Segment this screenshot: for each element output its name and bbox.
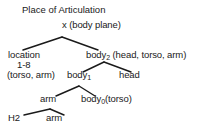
- node-h2: H2: [8, 113, 20, 123]
- node-body0-suffix: (torso): [105, 93, 132, 104]
- node-head-label: head: [119, 69, 140, 80]
- node-torso-arm-annotation: (torso, arm): [7, 70, 55, 80]
- node-h2-label: H2: [8, 112, 20, 123]
- node-body2-subscript: 2: [106, 54, 110, 61]
- node-body0-label: body: [81, 93, 101, 104]
- node-body1: body1: [67, 70, 91, 80]
- node-root-label: x (body plane): [62, 19, 121, 30]
- node-body2: body2 (head, torso, arm): [86, 50, 186, 60]
- node-arm-leaf: arm: [46, 113, 62, 123]
- node-arm-upper: arm: [40, 94, 56, 104]
- tree-edge-body1-to-arm1: [56, 86, 79, 96]
- place-of-articulation-diagram: Place of Articulation x (body plane) loc…: [0, 0, 203, 133]
- node-head: head: [119, 70, 140, 80]
- node-root: x (body plane): [62, 20, 121, 30]
- node-body0-subscript: 0: [101, 98, 105, 105]
- node-arm-upper-label: arm: [40, 93, 56, 104]
- node-torso-arm-label: (torso, arm): [7, 69, 55, 80]
- node-body1-label: body: [67, 69, 87, 80]
- node-body0: body0(torso): [81, 94, 132, 104]
- node-body1-subscript: 1: [87, 74, 91, 81]
- node-arm-leaf-label: arm: [46, 112, 62, 123]
- node-body2-label: body: [86, 49, 106, 60]
- node-body2-suffix: (head, torso, arm): [110, 49, 186, 60]
